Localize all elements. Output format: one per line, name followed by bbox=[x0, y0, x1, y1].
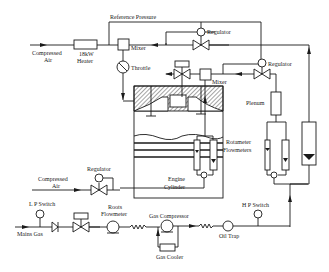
reference-pressure-label: Reference Pressure bbox=[110, 14, 156, 20]
hp-switch: H P Switch bbox=[242, 202, 269, 226]
hp-switch-label: H P Switch bbox=[242, 202, 269, 208]
mains-gas-label: Mains Gas bbox=[17, 231, 43, 237]
oil-trap-label: Oil Trap bbox=[219, 233, 239, 239]
heater-label: 18kW bbox=[79, 51, 94, 57]
flow-arrow-icon bbox=[307, 47, 311, 54]
lp-switch: L P Switch bbox=[29, 201, 55, 227]
engine-label-2: Cylinder bbox=[164, 184, 185, 190]
compressed-air-top-label: Compressed bbox=[32, 50, 62, 56]
heater-label-2: Heater bbox=[77, 58, 93, 64]
rotameter-label: Rotameter bbox=[226, 139, 251, 145]
heater: 18kW Heater bbox=[74, 40, 97, 64]
check-valve bbox=[52, 222, 58, 232]
engine-label: Engine bbox=[168, 176, 185, 182]
flow-arrow-icon bbox=[74, 188, 81, 192]
engine-test-rig-schematic: Reference Pressure Compressed Air 18kW H… bbox=[0, 0, 329, 272]
regulator-right: Regulator bbox=[254, 59, 292, 92]
regulator-top-label: Regulator bbox=[207, 29, 231, 35]
flow-arrow-icon bbox=[121, 93, 125, 100]
roots-label: Roots bbox=[108, 204, 123, 210]
regulator-left: Regulator bbox=[87, 166, 113, 195]
flow-arrow-icon bbox=[189, 224, 196, 228]
solenoid-valve bbox=[73, 213, 89, 232]
gas-cooler-label: Gas Cooler bbox=[156, 254, 183, 260]
compressed-air-mid-label-2: Air bbox=[52, 183, 60, 189]
mixer-gas-label: Mixer bbox=[212, 79, 227, 85]
regulator-left-label: Regulator bbox=[87, 166, 111, 172]
flex-hose-icon bbox=[130, 225, 146, 229]
flow-arrow-icon bbox=[22, 225, 29, 229]
flow-arrow-icon bbox=[40, 43, 47, 47]
flow-arrow-icon bbox=[235, 72, 242, 76]
flow-arrow-icon bbox=[156, 229, 160, 236]
flow-arrow-icon bbox=[288, 195, 292, 202]
rotameter-air bbox=[265, 122, 308, 184]
flow-arrow-icon bbox=[165, 72, 172, 76]
rotameter-tall bbox=[290, 122, 316, 184]
regulator-top: Regulator bbox=[166, 22, 231, 50]
mixer-air-label: Mixer bbox=[131, 45, 146, 51]
roots-label-2: Flowmeter bbox=[101, 211, 127, 217]
gas-compressor: Gas Compressor bbox=[149, 213, 199, 247]
regulator-right-label: Regulator bbox=[268, 61, 292, 67]
flow-arrow-icon bbox=[151, 43, 158, 47]
plenum-label: Plenum bbox=[246, 100, 265, 106]
reference-pressure-line: Reference Pressure bbox=[109, 14, 261, 62]
flex-hose-icon bbox=[199, 224, 213, 228]
compressed-air-top-label-2: Air bbox=[44, 57, 52, 63]
oil-trap: Oil Trap bbox=[199, 221, 290, 239]
gas-compressor-label: Gas Compressor bbox=[149, 213, 189, 219]
compressed-air-mid-label: Compressed bbox=[38, 176, 68, 182]
lp-switch-label: L P Switch bbox=[29, 201, 55, 207]
plenum: Plenum bbox=[246, 92, 281, 122]
throttle-label: Throttle bbox=[131, 65, 151, 71]
gas-cooler: Gas Cooler bbox=[156, 244, 183, 260]
rotameter-label-2: Flowmeters bbox=[223, 147, 252, 153]
